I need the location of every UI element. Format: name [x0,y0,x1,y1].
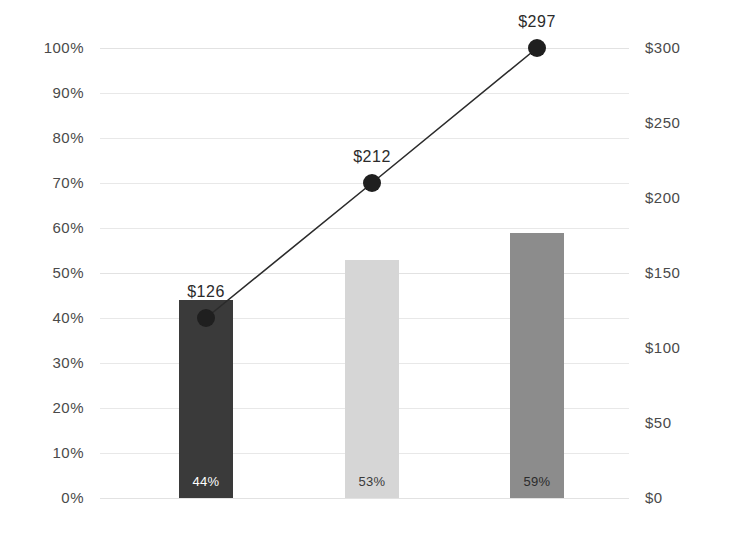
right-axis-tick-label: $250 [645,115,680,130]
right-axis-tick-label: $200 [645,190,680,205]
right-axis-tick-label: $50 [645,415,672,430]
left-axis-tick-label: 0% [61,490,84,505]
right-axis-tick-label: $300 [645,40,680,55]
left-axis-tick-label: 80% [52,130,84,145]
left-axis-tick-label: 40% [52,310,84,325]
line-point-label: $297 [518,14,556,30]
line-series [100,48,629,498]
line-marker[interactable] [528,39,546,57]
plot-area: 44%53%59% $126$212$297 [100,48,629,498]
left-axis-tick-label: 50% [52,265,84,280]
line-point-label: $126 [187,284,225,300]
chart-container: 100%90%80%70%60%50%40%30%20%10%0% $300$2… [0,0,729,533]
left-axis-tick-label: 30% [52,355,84,370]
line-marker[interactable] [197,309,215,327]
left-axis-tick-label: 60% [52,220,84,235]
left-axis-tick-label: 20% [52,400,84,415]
line-point-label: $212 [353,149,391,165]
right-axis-tick-label: $150 [645,265,680,280]
right-axis-tick-label: $0 [645,490,663,505]
left-axis-tick-label: 10% [52,445,84,460]
line-marker[interactable] [363,174,381,192]
left-axis-tick-label: 90% [52,85,84,100]
gridline [100,498,629,499]
left-axis-tick-label: 100% [44,40,84,55]
left-axis-tick-label: 70% [52,175,84,190]
right-axis-tick-label: $100 [645,340,680,355]
